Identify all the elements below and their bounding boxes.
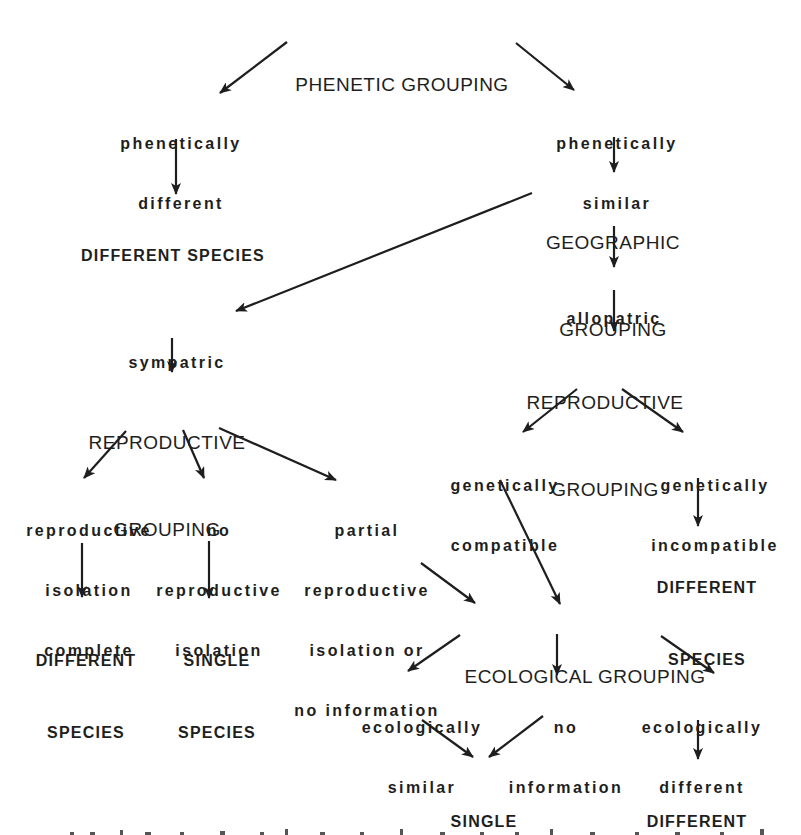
- node-phenetic-grouping: PHENETIC GROUPING: [295, 12, 508, 157]
- node-label: reproductive: [294, 581, 440, 601]
- node-label: genetically: [450, 476, 559, 496]
- node-label: isolation: [26, 581, 152, 601]
- arrow-phenetic-to-different: [220, 42, 287, 93]
- node-label: no: [509, 718, 623, 738]
- node-different-species-top: DIFFERENT SPECIES: [81, 196, 265, 316]
- arrow-phenetic-to-similar: [516, 43, 574, 90]
- node-label: partial: [294, 521, 440, 541]
- node-label: DIFFERENT: [657, 576, 758, 600]
- node-label: REPRODUCTIVE: [89, 428, 246, 457]
- node-label: allopatric: [566, 309, 661, 329]
- arrow-geographic-to-sympatric: [236, 193, 532, 311]
- node-label: isolation or: [294, 641, 440, 661]
- node-label: genetically: [651, 476, 778, 496]
- species-decision-diagram: PHENETIC GROUPING phenetically different…: [0, 0, 801, 835]
- node-label: information: [509, 778, 623, 798]
- node-label: phenetically: [120, 134, 241, 154]
- node-label: phenetically: [556, 134, 677, 154]
- node-label: ecologically: [362, 718, 482, 738]
- node-label: reproductive: [156, 581, 282, 601]
- node-label: REPRODUCTIVE: [527, 388, 684, 417]
- node-label: compatible: [450, 536, 559, 556]
- caption-ink-fragments: [60, 823, 800, 835]
- node-single-species-left: SINGLE SPECIES: [178, 601, 256, 793]
- node-label: DIFFERENT SPECIES: [81, 244, 265, 268]
- node-label: SPECIES: [178, 721, 256, 745]
- node-different-species-left: DIFFERENT SPECIES: [36, 601, 137, 793]
- node-label: GEOGRAPHIC: [546, 228, 680, 257]
- node-label: SINGLE: [178, 649, 256, 673]
- node-label: DIFFERENT: [36, 649, 137, 673]
- node-label: SPECIES: [36, 721, 137, 745]
- node-label: no: [156, 521, 282, 541]
- node-label: ecologically: [642, 718, 762, 738]
- node-no-information: no information: [509, 678, 623, 835]
- node-label: PHENETIC GROUPING: [295, 70, 508, 99]
- node-genetically-compatible: genetically compatible: [450, 436, 559, 596]
- cropped-caption-fragment: [60, 822, 800, 835]
- node-label: reproductive: [26, 521, 152, 541]
